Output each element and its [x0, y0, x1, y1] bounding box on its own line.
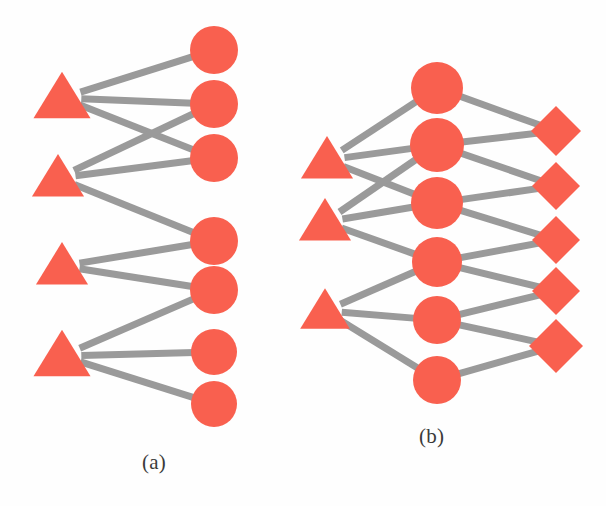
graph-edge: [457, 350, 542, 374]
graph-edge: [457, 324, 542, 342]
panel-label-a: (a): [142, 450, 166, 475]
graph-node-diamond[interactable]: [529, 319, 583, 373]
graph-node-circle[interactable]: [191, 381, 237, 427]
graph-edge: [344, 148, 414, 158]
graph-node-circle[interactable]: [190, 80, 238, 128]
graph-edge: [458, 267, 544, 288]
graph-node-circle[interactable]: [410, 118, 464, 172]
graph-edge: [339, 320, 419, 369]
graph-diagram-svg: [0, 0, 606, 506]
graph-node-diamond[interactable]: [531, 106, 581, 156]
graph-node-diamond[interactable]: [532, 267, 580, 315]
graph-node-circle[interactable]: [190, 134, 238, 182]
panel-label-b: (b): [419, 424, 444, 449]
graph-edge: [80, 362, 195, 398]
graph-node-circle[interactable]: [190, 26, 238, 74]
nodes-layer: [32, 26, 583, 427]
graph-edge: [342, 207, 415, 219]
graph-edge: [342, 228, 417, 255]
graph-edge: [79, 244, 193, 263]
graph-node-diamond[interactable]: [532, 162, 580, 210]
graph-node-circle[interactable]: [191, 329, 237, 375]
graph-node-triangle[interactable]: [300, 288, 350, 328]
graph-node-circle[interactable]: [190, 266, 238, 314]
graph-node-circle[interactable]: [413, 356, 461, 404]
graph-edge: [458, 210, 543, 237]
graph-edge: [458, 242, 543, 258]
graph-node-diamond[interactable]: [532, 216, 580, 264]
graph-edge: [342, 100, 419, 150]
graph-edge: [342, 312, 417, 318]
graph-edge: [79, 269, 193, 287]
graph-node-circle[interactable]: [411, 177, 463, 229]
graph-edge: [80, 56, 194, 92]
graph-edge: [458, 96, 543, 127]
graph-edge: [74, 185, 195, 234]
graph-node-circle[interactable]: [412, 237, 462, 287]
graph-node-circle[interactable]: [190, 217, 238, 265]
graph-edge: [460, 133, 543, 143]
graph-edge: [340, 271, 417, 305]
graph-edge: [459, 188, 543, 200]
graph-edge: [459, 152, 544, 181]
figure-canvas: (a) (b): [0, 0, 606, 506]
graph-node-circle[interactable]: [413, 296, 461, 344]
graph-edge: [81, 353, 194, 356]
graph-edge: [81, 99, 193, 103]
graph-edge: [80, 298, 196, 348]
graph-edge: [457, 294, 543, 315]
graph-node-circle[interactable]: [411, 62, 463, 114]
